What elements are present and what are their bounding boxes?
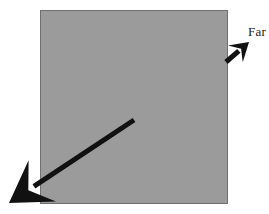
far-label: Far (248, 25, 266, 38)
gray-square-region (41, 11, 228, 204)
figure-graphics (0, 0, 269, 214)
figure-canvas: Far (0, 0, 269, 214)
